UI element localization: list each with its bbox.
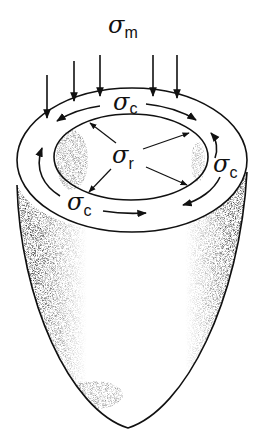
- meridional-arrows: [47, 55, 177, 118]
- radial-arrows: [89, 123, 189, 192]
- radial-arrow: [146, 167, 187, 185]
- label-sigma-m: σm: [108, 11, 138, 41]
- radial-arrow: [89, 169, 111, 192]
- label-sigma-c-right: σc: [213, 150, 237, 181]
- circumferential-arrow: [146, 104, 196, 120]
- label-sigma-r: σr: [112, 141, 134, 172]
- cavity-shading: [56, 130, 88, 190]
- radial-arrow: [143, 133, 189, 149]
- radial-arrow: [90, 123, 116, 143]
- label-sigma-c-top: σc: [113, 88, 137, 117]
- circumferential-arrow: [103, 211, 146, 213]
- ventricle-stress-diagram: σm σc σr σc σc: [0, 0, 264, 439]
- circumferential-arrow: [183, 177, 220, 205]
